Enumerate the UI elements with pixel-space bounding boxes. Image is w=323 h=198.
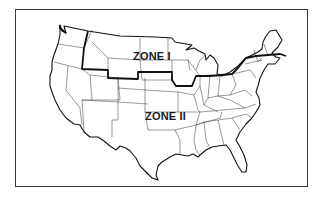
zone-2-label: ZONE II [145,110,186,122]
zone-1-label: ZONE I [133,50,171,62]
us-map [0,0,323,198]
